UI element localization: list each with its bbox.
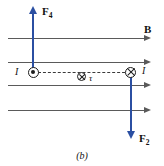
circle-cross-icon [125, 67, 136, 78]
magnetic-field-label: B [144, 24, 151, 35]
field-line-arrow-icon [144, 35, 151, 41]
torque-label: τ [89, 74, 92, 83]
field-line [8, 110, 144, 111]
field-line-arrow-icon [144, 59, 151, 65]
force-up-subscript: 4 [49, 11, 53, 20]
circle-dot-icon [28, 67, 39, 78]
physics-force-diagram: F4 B I I τ F2 (b) [0, 0, 164, 166]
torque-circle-cross-icon [77, 72, 86, 81]
figure-caption: (b) [0, 150, 164, 161]
field-line-arrow-icon [144, 82, 151, 88]
force-vector-up-shaft [32, 13, 34, 72]
field-line [8, 38, 144, 39]
current-left-label: I [15, 67, 18, 77]
field-line [8, 85, 144, 86]
force-up-symbol: F [42, 5, 49, 17]
current-right-label: I [142, 66, 145, 76]
force-vector-up-arrowhead-icon [29, 6, 37, 14]
force-vector-down-shaft [130, 72, 132, 132]
force-vector-down-arrowhead-icon [127, 131, 135, 139]
force-down-subscript: 2 [146, 138, 150, 147]
field-line [8, 62, 144, 63]
force-up-label: F4 [42, 6, 52, 20]
force-down-label: F2 [139, 133, 149, 147]
force-down-symbol: F [139, 132, 146, 144]
field-line-arrow-icon [144, 107, 151, 113]
